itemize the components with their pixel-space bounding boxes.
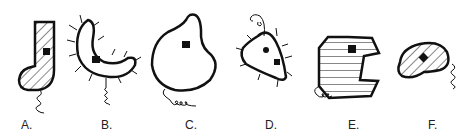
- label-e: E.: [348, 118, 359, 132]
- label-d: D.: [265, 118, 277, 132]
- label-a: A.: [21, 118, 32, 132]
- label-c: C.: [185, 118, 197, 132]
- label-f: F.: [428, 118, 437, 132]
- organism-c: [152, 15, 216, 106]
- organism-e: [315, 37, 379, 98]
- label-b: B.: [101, 118, 112, 132]
- organism-f: [398, 43, 455, 89]
- organism-d: [236, 15, 292, 87]
- organism-a: [19, 22, 54, 113]
- organism-diagram: [0, 0, 473, 138]
- organism-b: [67, 15, 141, 105]
